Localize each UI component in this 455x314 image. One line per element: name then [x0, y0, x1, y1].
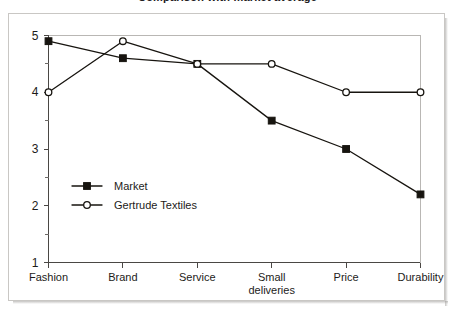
series-gertrude-textiles [45, 38, 424, 96]
legend-swatch-marker [84, 183, 91, 190]
y-axis-tick-label: 4 [32, 85, 39, 99]
x-axis-category-label: Price [334, 271, 359, 283]
chart-legend: MarketGertrude Textiles [72, 180, 197, 211]
legend-entry: Market [72, 180, 148, 192]
x-axis-category-label: Durability [398, 271, 444, 283]
legend-label: Gertrude Textiles [114, 199, 197, 211]
x-axis-category-label: Fashion [29, 271, 68, 283]
data-point-marker [120, 38, 127, 45]
x-axis-category-label: Brand [108, 271, 137, 283]
x-axis-category-label: Service [179, 271, 216, 283]
data-point-marker [45, 89, 52, 96]
legend-entry: Gertrude Textiles [72, 199, 197, 211]
y-axis-tick-labels: 12345 [32, 29, 39, 270]
x-axis-category-label: Small [258, 271, 286, 283]
y-axis-tick-label: 1 [32, 256, 39, 270]
y-axis-tick-label: 3 [32, 142, 39, 156]
series-market [45, 38, 424, 198]
data-point-marker [343, 89, 350, 96]
axes-layer [44, 36, 421, 268]
data-point-marker [417, 191, 424, 198]
figure-root: Comparison with market average 12345 Fas… [0, 0, 455, 314]
data-point-marker [343, 146, 350, 153]
data-point-marker [268, 61, 275, 68]
y-axis-tick-label: 2 [32, 199, 39, 213]
data-point-marker [417, 89, 424, 96]
series-line [49, 41, 421, 92]
data-point-marker [120, 55, 127, 62]
data-point-marker [194, 61, 201, 68]
x-axis-category-labels: FashionBrandServiceSmalldeliveriesPriceD… [29, 271, 444, 296]
data-point-marker [268, 117, 275, 124]
legend-label: Market [114, 180, 148, 192]
x-axis-category-label: deliveries [248, 284, 295, 296]
y-axis-tick-label: 5 [32, 29, 39, 43]
line-chart: 12345 FashionBrandServiceSmalldeliveries… [0, 0, 455, 314]
series-layer [45, 38, 424, 198]
data-point-marker [45, 38, 52, 45]
legend-swatch-marker [84, 202, 91, 209]
